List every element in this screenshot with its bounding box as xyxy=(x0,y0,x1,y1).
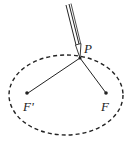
label-f: F xyxy=(100,99,110,114)
focus-f xyxy=(104,91,108,95)
label-f-prime: F' xyxy=(22,99,34,114)
label-p: P xyxy=(83,41,92,56)
string-to-f-prime xyxy=(28,58,80,93)
ellipse-diagram: P F' F xyxy=(0,0,134,143)
point-p xyxy=(78,56,81,59)
focus-f-prime xyxy=(25,91,29,95)
pencil-icon xyxy=(66,4,81,59)
